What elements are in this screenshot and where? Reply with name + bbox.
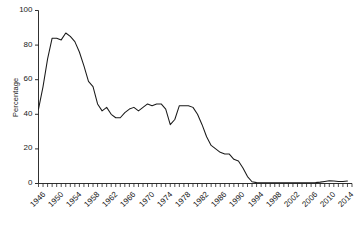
data-series-line: [39, 33, 348, 183]
axis-spines: [39, 11, 353, 184]
chart-figure: Percentage 020406080100 1946195019541958…: [0, 0, 360, 225]
x-tick-marks: [39, 184, 353, 188]
y-tick-marks: [35, 11, 39, 184]
plot-area: [0, 0, 360, 225]
